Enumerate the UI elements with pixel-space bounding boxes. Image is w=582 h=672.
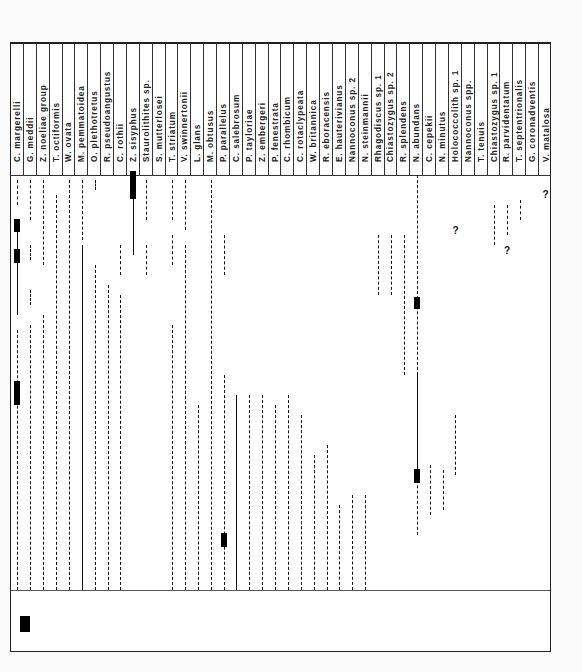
species-column: Staurolithites sp.	[140, 44, 153, 175]
species-column: P. tayloriae	[243, 44, 256, 175]
range-line	[211, 180, 212, 590]
species-column: C. cepekii	[423, 44, 436, 175]
species-label: L. glans	[193, 124, 202, 162]
species-label: N. abundans	[412, 103, 421, 162]
range-line	[520, 200, 521, 220]
species-label: Rhagodiscus sp. 1	[373, 74, 382, 162]
range-line	[30, 180, 31, 220]
species-column: M. obtusus	[204, 44, 217, 175]
range-line	[185, 180, 186, 230]
range-line	[443, 470, 444, 510]
range-line	[30, 245, 31, 260]
species-label: R. parvidentatum	[502, 81, 511, 162]
range-line	[82, 245, 83, 590]
species-label: Z. noeliae group	[38, 84, 47, 162]
species-header: C. margerelliG. meddiiZ. noeliae groupT.…	[11, 44, 550, 176]
range-line	[365, 495, 366, 590]
range-line	[43, 180, 44, 265]
species-column: O. plethotretus	[88, 44, 101, 175]
species-column: R. eboracensis	[320, 44, 333, 175]
range-line	[95, 180, 96, 190]
species-column: Z. sisyphus	[127, 44, 140, 175]
species-column: C. rothii	[114, 44, 127, 175]
species-label: Z. embergeri	[257, 102, 266, 162]
species-column: C. margerelli	[11, 44, 24, 175]
species-label: V. matalosa	[541, 107, 550, 162]
range-line	[249, 395, 250, 590]
range-line	[494, 205, 495, 245]
range-line	[352, 495, 353, 590]
species-column: Chiastozygus sp. 2	[385, 44, 398, 175]
range-chart-frame: C. margerelliG. meddiiZ. noeliae groupT.…	[10, 42, 551, 652]
range-line	[507, 205, 508, 235]
species-column: R. pseudoangustus	[101, 44, 114, 175]
species-column: L. glans	[191, 44, 204, 175]
uncertain-marker: ?	[543, 189, 549, 200]
species-label: T. septentrionalis	[515, 79, 524, 162]
range-line	[172, 235, 173, 265]
range-line	[185, 245, 186, 590]
range-line	[172, 325, 173, 590]
species-column: N. abundans	[410, 44, 423, 175]
species-label: R. pseudoangustus	[103, 71, 112, 162]
range-line	[417, 375, 418, 475]
range-line	[146, 245, 147, 275]
abundance-bar	[414, 469, 420, 483]
species-column: T. tenuis	[475, 44, 488, 175]
uncertain-marker: ?	[504, 245, 510, 256]
species-label: N. steinmannii	[360, 93, 369, 162]
range-line	[404, 235, 405, 375]
range-line	[146, 180, 147, 220]
range-line	[30, 325, 31, 590]
species-column: Holococcolith sp. 1	[449, 44, 462, 175]
species-label: Holococcolith sp. 1	[450, 70, 459, 162]
abundance-bar	[221, 533, 227, 547]
species-label: N. minutus	[438, 111, 447, 162]
range-line	[275, 405, 276, 590]
species-label: Nannoconus sp. 2	[347, 77, 356, 162]
range-line	[56, 195, 57, 590]
species-label: W. britannica	[309, 99, 318, 162]
species-label: M. obtusus	[206, 110, 215, 162]
species-label: P. fenestrata	[270, 102, 279, 162]
range-line	[198, 405, 199, 590]
thick-bar-marker	[20, 616, 30, 632]
species-label: C. rhombicum	[283, 96, 292, 162]
species-column: P. fenestrata	[269, 44, 282, 175]
species-label: Z. sisyphus	[128, 107, 137, 162]
species-label: C. rotaclypeata	[296, 90, 305, 162]
species-column: N. minutus	[436, 44, 449, 175]
species-label: T. tenuis	[476, 121, 485, 162]
species-column: T. striatum	[166, 44, 179, 175]
species-column: R. parvidentatum	[500, 44, 513, 175]
species-column: G. coronadventis	[526, 44, 539, 175]
range-line	[69, 180, 70, 590]
species-column: N. steinmannii	[359, 44, 372, 175]
species-column: C. rhombicum	[282, 44, 295, 175]
species-column: V. matalosa	[539, 44, 552, 175]
species-column: Nannoconus spp.	[462, 44, 475, 175]
species-column: T. septentrionalis	[513, 44, 526, 175]
range-line	[43, 315, 44, 590]
range-body: ???	[11, 175, 550, 590]
species-label: P. tayloriae	[244, 109, 253, 162]
range-line	[108, 285, 109, 590]
species-column: W. britannica	[307, 44, 320, 175]
species-column: G. meddii	[24, 44, 37, 175]
range-line	[17, 180, 18, 205]
range-line	[417, 175, 418, 375]
range-line	[17, 330, 18, 590]
range-line	[82, 180, 83, 240]
species-label: M. pemmatoidea	[77, 85, 86, 162]
species-label: Nannoconus spp.	[463, 80, 472, 162]
species-column: Nannoconus sp. 2	[346, 44, 359, 175]
species-label: E. hauterivianus	[334, 84, 343, 162]
range-line	[224, 235, 225, 275]
species-column: V. swinnertonii	[178, 44, 191, 175]
range-line	[327, 445, 328, 590]
species-label: O. plethotretus	[90, 90, 99, 162]
species-column: R. splendens	[397, 44, 410, 175]
range-line	[120, 295, 121, 590]
range-line	[288, 395, 289, 590]
range-line	[120, 245, 121, 275]
